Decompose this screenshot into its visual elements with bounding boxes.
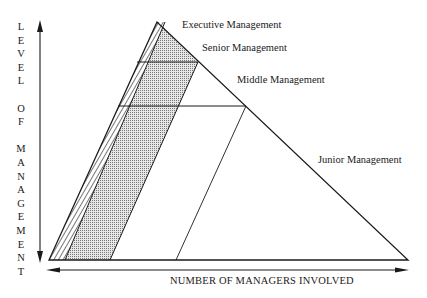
y-axis-letter: M [14, 224, 28, 238]
y-axis-arrow-up-head [37, 20, 43, 32]
y-axis-letter: T [14, 265, 28, 279]
y-axis-letter: E [14, 238, 28, 252]
x-axis-arrow-left-head [46, 268, 60, 273]
y-axis-letter: M [14, 142, 28, 156]
x-axis-arrow-right-head [395, 268, 409, 273]
y-axis-letter: A [14, 183, 28, 197]
y-axis-letter [14, 88, 28, 102]
y-axis-letter: L [14, 74, 28, 88]
label-executive-management: Executive Management [182, 19, 281, 30]
y-axis-letter: A [14, 156, 28, 170]
label-senior-management: Senior Management [202, 42, 287, 53]
y-axis-letter: L [14, 20, 28, 34]
y-axis-letter: E [14, 210, 28, 224]
label-junior-management: Junior Management [318, 154, 402, 165]
y-axis-letter: G [14, 197, 28, 211]
y-axis-letter: V [14, 47, 28, 61]
y-axis-letter: F [14, 115, 28, 129]
middle-boundary-line [176, 106, 246, 260]
y-axis-arrow-down-head [37, 251, 43, 263]
x-axis-label: NUMBER OF MANAGERS INVOLVED [170, 275, 354, 286]
y-axis-letter: E [14, 34, 28, 48]
y-axis-letter: O [14, 102, 28, 116]
y-axis-letter: N [14, 251, 28, 265]
label-middle-management: Middle Management [237, 74, 325, 85]
y-axis-label: LEVELOFMANAGEMENT [14, 20, 28, 278]
y-axis-letter: E [14, 61, 28, 75]
y-axis-letter [14, 129, 28, 143]
y-axis-letter: N [14, 170, 28, 184]
